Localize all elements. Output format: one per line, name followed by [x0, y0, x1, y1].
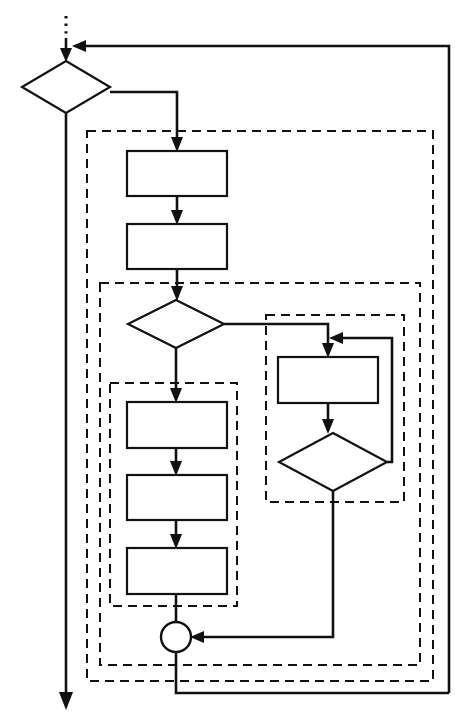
process-6[interactable] — [278, 357, 378, 403]
arrow-head-process-6-to-decision-3 — [322, 419, 334, 434]
decision-1[interactable] — [22, 61, 110, 113]
arrow-head-decision-1-to-process-1 — [171, 137, 183, 152]
process-3[interactable] — [127, 402, 227, 448]
process-1[interactable] — [127, 151, 227, 196]
flowchart-diagram — [0, 0, 472, 726]
arrow-head-exit-connector — [59, 692, 73, 710]
arrow-head-process-3-to-process-4 — [170, 461, 182, 476]
arrow-head-decision-2-to-process-6 — [322, 343, 334, 358]
edge-decision-1-right-to-process-1 — [110, 92, 177, 144]
edge-merge-node-down-to-right-rail — [176, 652, 449, 693]
process-5[interactable] — [127, 548, 227, 594]
arrow-head-process-1-to-process-2 — [171, 210, 183, 225]
process-4[interactable] — [127, 475, 227, 520]
decision-3[interactable] — [279, 433, 387, 491]
arrow-head-process-4-to-process-5 — [170, 534, 182, 549]
edge-merge-node-to-decision-1-feedback — [84, 46, 449, 693]
arrow-head-feedback-to-decision-1 — [72, 40, 86, 52]
process-2[interactable] — [127, 224, 227, 269]
arrow-head-loopback-to-process-6 — [329, 332, 343, 344]
flowchart-canvas — [0, 0, 472, 726]
decision-2[interactable] — [128, 300, 224, 348]
arrow-head-process-2-to-decision-2 — [171, 286, 183, 301]
edge-decision-2-right-to-process-6 — [224, 324, 328, 350]
arrow-head-decision-2-to-process-3 — [170, 388, 182, 403]
merge-node[interactable] — [161, 622, 191, 652]
